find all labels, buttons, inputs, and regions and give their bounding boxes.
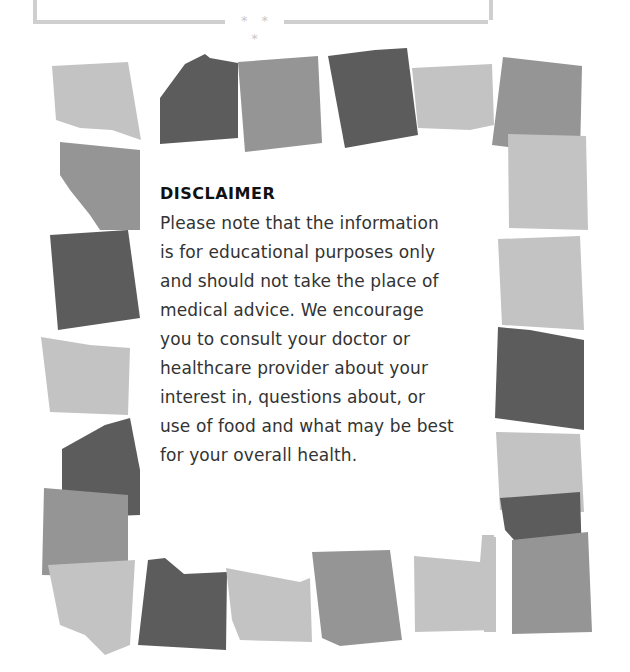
paper-patch-light — [414, 537, 496, 632]
disclaimer-line: healthcare provider about your — [160, 354, 480, 383]
disclaimer-line: you to consult your doctor or — [160, 325, 480, 354]
disclaimer-line: is for educational purposes only — [160, 238, 480, 267]
paper-patch-dark — [50, 230, 140, 330]
disclaimer-box: DISCLAIMER Please note that the informat… — [160, 183, 480, 470]
disclaimer-line: medical advice. We encourage — [160, 296, 480, 325]
paper-patch-dark — [160, 54, 238, 144]
paper-patch-dark — [328, 48, 418, 148]
paper-patch-medium — [512, 532, 592, 634]
paper-patch-dark — [138, 558, 227, 650]
disclaimer-line: interest in, questions about, or — [160, 383, 480, 412]
disclaimer-line: use of food and what may be best — [160, 412, 480, 441]
paper-patch-light — [508, 134, 588, 230]
paper-patch-light — [52, 62, 141, 140]
paper-patch-medium — [60, 142, 140, 230]
paper-patch-medium — [238, 56, 322, 152]
paper-patch-light — [48, 560, 135, 655]
disclaimer-line: and should not take the place of — [160, 267, 480, 296]
disclaimer-title: DISCLAIMER — [160, 183, 480, 205]
paper-patch-light — [41, 337, 130, 415]
disclaimer-line: for your overall health. — [160, 441, 480, 470]
disclaimer-line: Please note that the information — [160, 209, 480, 238]
paper-patch-dark — [495, 327, 584, 430]
paper-patch-light — [226, 568, 312, 642]
paper-patch-medium — [312, 550, 402, 646]
paper-patch-light — [498, 236, 584, 330]
paper-patch-light — [412, 64, 494, 130]
